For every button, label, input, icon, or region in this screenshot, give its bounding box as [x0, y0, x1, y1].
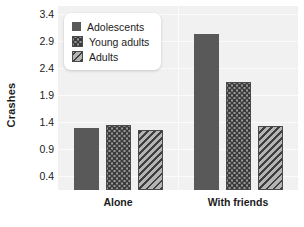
legend-item[interactable]: Adults — [72, 49, 149, 64]
legend-label: Young adults — [89, 36, 149, 48]
y-axis-tick-labels: 0.40.91.41.92.42.93.4 — [24, 0, 54, 227]
y-axis-tick-label: 1.9 — [24, 89, 54, 101]
x-axis-tick-labels: AloneWith friends — [58, 196, 298, 216]
legend-swatch-young-adults-icon — [72, 36, 83, 47]
x-axis-tick-label: Alone — [103, 196, 132, 208]
y-axis-tick-label: 0.9 — [24, 143, 54, 155]
y-axis-title: Crashes — [2, 60, 20, 150]
y-axis-tick-label: 1.4 — [24, 116, 54, 128]
legend-item[interactable]: Adolescents — [72, 19, 149, 34]
bar — [226, 82, 251, 190]
y-axis-tick-label: 2.4 — [24, 62, 54, 74]
bar — [194, 34, 219, 190]
y-axis-tick-label: 2.9 — [24, 35, 54, 47]
legend-swatch-adolescents-icon — [72, 22, 81, 31]
bar-chart: Crashes 0.40.91.41.92.42.93.4 Adolescent… — [0, 0, 304, 227]
x-axis-tick-label: With friends — [208, 196, 269, 208]
y-axis-tick-label: 3.4 — [24, 8, 54, 20]
group-divider — [178, 6, 179, 190]
legend: Adolescents Young adults Adults — [64, 13, 161, 70]
y-axis-title-label: Crashes — [5, 83, 17, 128]
bar — [258, 126, 283, 190]
bar — [106, 125, 131, 190]
y-axis-tick-label: 0.4 — [24, 170, 54, 182]
legend-label: Adolescents — [87, 21, 144, 33]
legend-label: Adults — [89, 51, 118, 63]
legend-item[interactable]: Young adults — [72, 34, 149, 49]
legend-swatch-adults-icon — [72, 51, 83, 62]
bar — [74, 128, 99, 190]
bar — [138, 130, 163, 190]
